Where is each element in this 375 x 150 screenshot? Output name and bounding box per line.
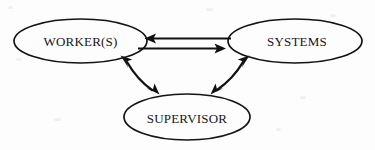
edge-systems-supervisor — [211, 56, 250, 95]
edge-workers-supervisor-arrowhead-lower — [147, 83, 160, 94]
node-supervisor-label: SUPERVISOR — [147, 111, 228, 126]
node-systems[interactable]: SYSTEMS — [228, 19, 362, 63]
edge-workers-supervisor-curve — [127, 62, 152, 90]
node-supervisor[interactable]: SUPERVISOR — [124, 94, 250, 140]
edge-systems-to-workers — [145, 34, 232, 44]
diagram-canvas: WORKER(S) SYSTEMS SUPERVISOR — [0, 0, 375, 150]
node-systems-label: SYSTEMS — [267, 34, 327, 49]
edge-workers-to-systems — [138, 44, 226, 54]
edge-systems-supervisor-arrowhead-lower — [211, 83, 224, 94]
diagram-graphic: WORKER(S) SYSTEMS SUPERVISOR — [0, 0, 375, 150]
edge-workers-supervisor — [121, 56, 160, 95]
edge-systems-supervisor-curve — [217, 62, 243, 90]
node-workers-label: WORKER(S) — [43, 34, 117, 49]
node-workers[interactable]: WORKER(S) — [14, 19, 147, 63]
